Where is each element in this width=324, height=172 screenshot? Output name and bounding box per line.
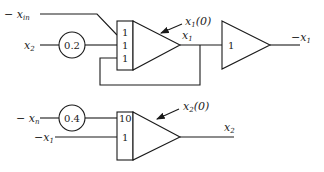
neg-xin-wire: [40, 14, 117, 35]
integrator-2-gain-1: 10: [119, 113, 132, 124]
x2-initial-condition-label: x2(0): [183, 100, 209, 114]
integrator-1-gain-2: 1: [122, 40, 128, 51]
ic-arrow-icon: [157, 109, 179, 119]
x1-initial-condition-label: x1(0): [185, 15, 211, 29]
integrator-2-triangle: [133, 112, 180, 160]
analog-computer-diagram: 1 1 1 0.2 − xin x2 x1(0) x1 1 −x1 10 1 0…: [0, 0, 324, 172]
integrator-2-gain-2: 1: [122, 132, 128, 143]
x2-input-label: x2: [24, 39, 35, 53]
x2-output-label: x2: [224, 121, 235, 135]
neg-x1-output-label: −x1: [291, 31, 311, 45]
neg-x1-input-label: −x1: [34, 131, 54, 145]
potentiometer-2-value: 0.4: [64, 113, 80, 124]
integrator-1-gain-3: 1: [122, 53, 128, 64]
inverter-gain: 1: [228, 40, 234, 51]
ic-arrow-icon: [161, 24, 182, 33]
integrator-1-gain-1: 1: [122, 27, 128, 38]
neg-xin-label: − xin: [4, 8, 30, 22]
potentiometer-1-value: 0.2: [64, 40, 80, 51]
neg-xn-label: − xn: [16, 112, 40, 126]
x1-output-label: x1: [182, 29, 193, 43]
